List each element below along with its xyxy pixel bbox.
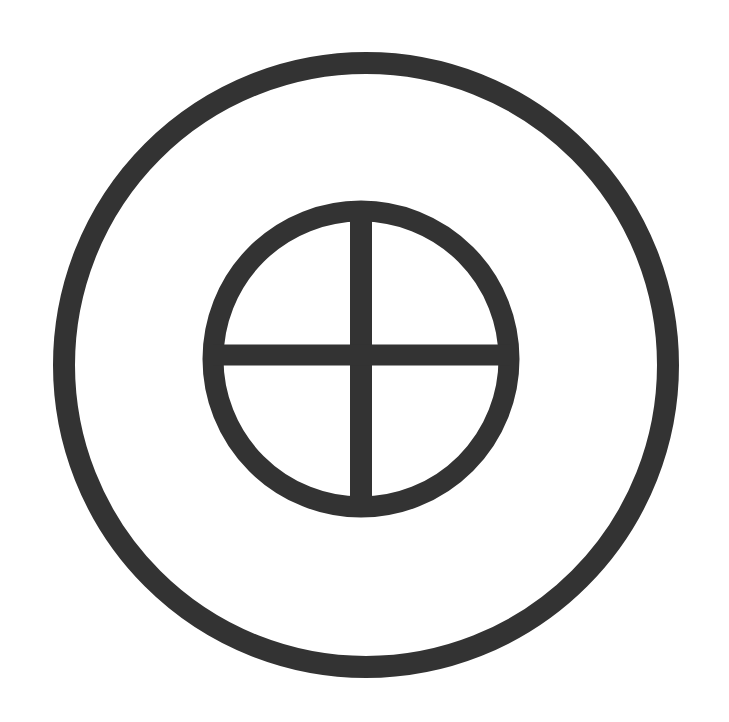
earth-symbol-icon xyxy=(0,0,729,722)
symbol-canvas: Circled cross within ring (Earth / sun-c… xyxy=(0,0,729,722)
